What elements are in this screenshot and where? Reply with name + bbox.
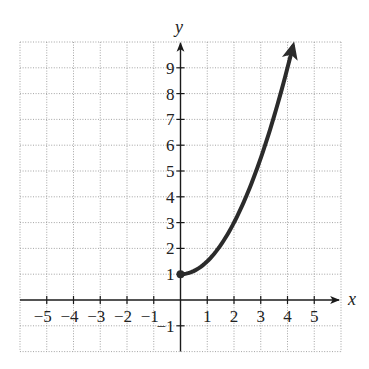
y-tick-label: 4 <box>166 188 175 207</box>
y-axis-label: y <box>173 17 183 37</box>
function-curve <box>177 47 293 279</box>
x-tick-label: 5 <box>310 307 319 326</box>
x-tick-label: 2 <box>230 307 239 326</box>
x-tick-label: −2 <box>114 307 132 326</box>
x-tick-label: 3 <box>257 307 266 326</box>
x-tick-label: −3 <box>87 307 105 326</box>
x-tick-label: 4 <box>283 307 292 326</box>
y-tick-label: 5 <box>166 162 175 181</box>
curve-path <box>181 47 293 275</box>
y-tick-label: 3 <box>166 214 175 233</box>
y-tick-label: 6 <box>166 136 175 155</box>
x-tick-label: 1 <box>203 307 212 326</box>
start-point-dot <box>177 270 185 278</box>
function-graph: −5−4−3−2−112345−1123456789 x y <box>0 0 369 369</box>
y-tick-label: 2 <box>166 239 175 258</box>
y-tick-label: 1 <box>166 265 175 284</box>
x-axis-label: x <box>347 289 356 309</box>
x-tick-label: −5 <box>34 307 52 326</box>
y-tick-label: 9 <box>166 59 175 78</box>
y-tick-label: 7 <box>166 110 175 129</box>
axis-ticks: −5−4−3−2−112345−1123456789 <box>34 59 319 336</box>
y-tick-label: 8 <box>166 85 175 104</box>
x-tick-label: −4 <box>60 307 79 326</box>
y-tick-label: −1 <box>156 317 174 336</box>
